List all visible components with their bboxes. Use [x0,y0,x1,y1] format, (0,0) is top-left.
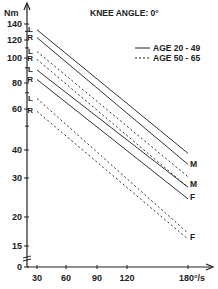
y-tick-label: 40 [12,145,22,155]
side-label: L [28,94,33,103]
legend-solid-label: AGE 20 - 49 [153,43,201,53]
x-tick-label: 90 [92,273,102,283]
side-label: R [27,54,33,63]
series-line [37,111,188,239]
side-label: R [27,33,33,42]
x-tick-label: 120 [119,273,134,283]
y-tick-label: 30 [12,173,22,183]
series-line [37,70,188,187]
legend-dashed-label: AGE 50 - 65 [153,53,201,63]
side-label: L [28,65,33,74]
x-tick-label: 60 [61,273,71,283]
y-unit-label: Nm [4,8,19,18]
series-line [37,59,188,187]
y-tick-label: 80 [12,78,22,88]
chart-title: KNEE ANGLE: 0° [90,8,159,18]
group-end-label: F [190,232,195,242]
y-tick-label: 15 [12,241,22,251]
y-tick-label: 140 [7,19,22,29]
group-end-label: F [190,192,195,202]
y-tick-label: 120 [7,35,22,45]
y-tick-label: 100 [7,53,22,63]
y-tick-label: 0 [17,262,22,272]
group-end-label: M [190,159,197,169]
y-tick-label: 20 [12,212,22,222]
x-tick-label: 30 [32,273,42,283]
series-line [37,99,188,234]
group-end-label: M [190,179,197,189]
y-tick-label: 60 [12,104,22,114]
side-label: R [27,106,33,115]
torque-velocity-chart: Nm0152030406080100120140306090120180°/sK… [0,0,218,289]
series-line [37,80,188,199]
side-label: R [27,75,33,84]
chart-canvas: Nm0152030406080100120140306090120180°/sK… [0,0,218,289]
series-line [37,52,188,177]
x-tick-label: 180°/s [179,273,205,283]
